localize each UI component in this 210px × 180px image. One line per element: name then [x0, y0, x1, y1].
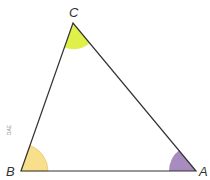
vertex-label-b: B — [6, 164, 15, 179]
angle-marker-a — [169, 150, 196, 171]
vertex-label-c: C — [69, 5, 78, 20]
vertex-label-a: A — [199, 164, 208, 179]
triangle-diagram — [0, 0, 210, 180]
triangle-outline — [21, 23, 196, 171]
side-note: DAE — [6, 125, 12, 135]
